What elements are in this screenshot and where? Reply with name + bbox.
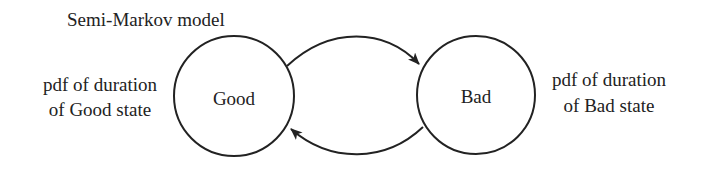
- state-good-label: Good: [204, 87, 264, 111]
- bad-duration-annotation-line2: of Bad state: [539, 94, 679, 118]
- good-duration-annotation-line2: of Good state: [30, 98, 170, 122]
- bad-duration-annotation-line1: pdf of duration: [539, 68, 679, 92]
- diagram-title: Semi-Markov model: [67, 8, 225, 32]
- transition-bad-to-good-arrow: [291, 127, 423, 154]
- transition-good-to-bad-arrow: [287, 37, 419, 67]
- state-bad-label: Bad: [446, 85, 506, 109]
- good-duration-annotation-line1: pdf of duration: [30, 73, 170, 97]
